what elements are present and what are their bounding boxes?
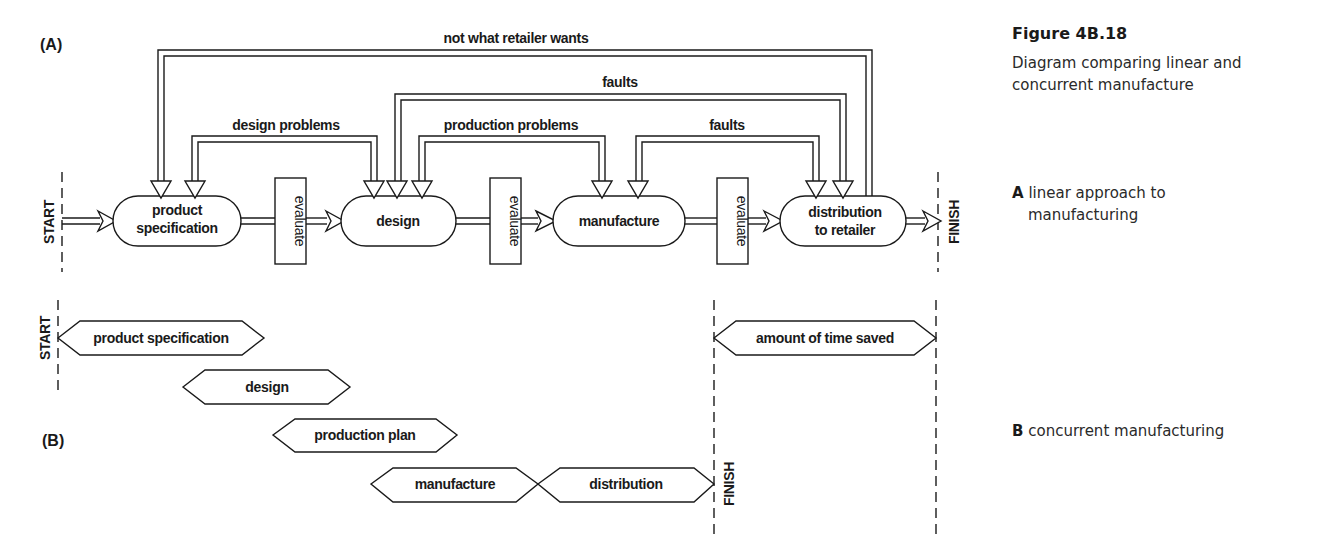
feedback-label: design problems bbox=[232, 117, 340, 133]
stage-label: manufacture bbox=[579, 213, 660, 229]
bar-label: distribution bbox=[589, 476, 662, 492]
label-a: (A) bbox=[40, 36, 62, 53]
feedback-faults-long bbox=[387, 94, 853, 198]
label-b: (B) bbox=[42, 432, 64, 449]
stage-label: to retailer bbox=[815, 222, 876, 238]
feedback-label: production problems bbox=[444, 117, 579, 133]
finish-label-a: FINISH bbox=[946, 200, 962, 244]
part-text: manufacturing bbox=[1012, 204, 1312, 226]
part-text: linear approach to bbox=[1028, 184, 1165, 202]
stage-label: product bbox=[152, 202, 203, 218]
stage-label: specification bbox=[136, 220, 218, 236]
stage-label: distribution bbox=[808, 204, 881, 220]
part-letter: B bbox=[1012, 422, 1023, 440]
evaluate-label: evaluate bbox=[292, 196, 308, 247]
time-saved-label: amount of time saved bbox=[756, 330, 894, 346]
part-text: concurrent manufacturing bbox=[1028, 422, 1224, 440]
start-label-a: START bbox=[41, 199, 57, 244]
part-b-caption: B concurrent manufacturing bbox=[1012, 420, 1312, 442]
evaluate-label: evaluate bbox=[507, 196, 523, 247]
figure-description: Diagram comparing linear and concurrent … bbox=[1012, 52, 1312, 96]
part-letter: A bbox=[1012, 184, 1024, 202]
bar-label: manufacture bbox=[415, 476, 496, 492]
stage-label: design bbox=[376, 213, 419, 229]
evaluate-label: evaluate bbox=[734, 196, 750, 247]
bar-label: product specification bbox=[93, 330, 228, 346]
feedback-label: faults bbox=[602, 74, 638, 90]
start-label-b: START bbox=[37, 315, 53, 360]
feedback-label: faults bbox=[709, 117, 745, 133]
finish-label-b: FINISH bbox=[721, 462, 737, 506]
bar-label: design bbox=[245, 379, 288, 395]
bar-label: production plan bbox=[314, 427, 415, 443]
part-a-caption: A linear approach to manufacturing bbox=[1012, 182, 1312, 226]
feedback-label: not what retailer wants bbox=[444, 30, 589, 46]
figure-title: Figure 4B.18 bbox=[1012, 24, 1127, 43]
